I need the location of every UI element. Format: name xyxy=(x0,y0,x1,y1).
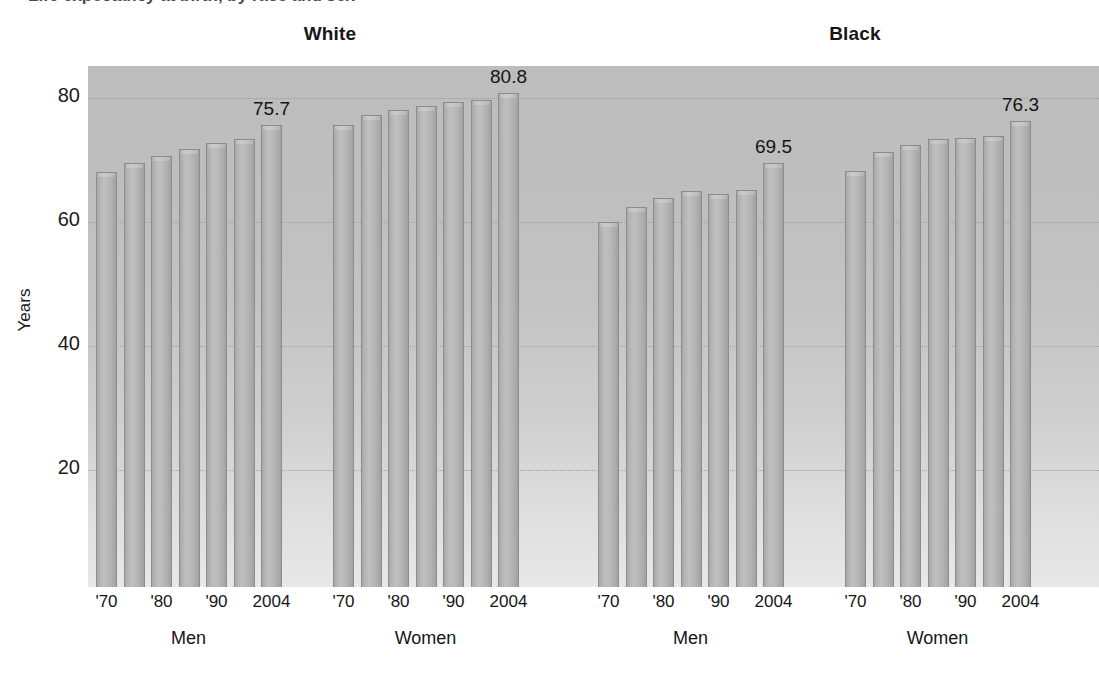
bar-value-label: 75.7 xyxy=(232,98,312,120)
bar xyxy=(708,194,729,587)
group-label-women-3: Women xyxy=(858,628,1018,649)
bar xyxy=(206,143,227,587)
bar xyxy=(124,163,145,587)
plot-area xyxy=(88,66,1099,587)
section-title-white: White xyxy=(255,23,405,45)
x-tick-label: 2004 xyxy=(989,592,1053,612)
bar xyxy=(681,191,702,587)
bar xyxy=(598,222,619,587)
bar xyxy=(443,102,464,587)
bar xyxy=(626,207,647,587)
bar xyxy=(179,149,200,587)
bar xyxy=(983,136,1004,587)
bar xyxy=(928,139,949,587)
bar xyxy=(234,139,255,587)
bar xyxy=(151,156,172,587)
bar-value-label: 69.5 xyxy=(734,136,814,158)
bar xyxy=(96,172,117,587)
group-label-women-1: Women xyxy=(346,628,506,649)
y-tick-label-60: 60 xyxy=(36,208,80,231)
bar xyxy=(873,152,894,587)
bar-value-label: 80.8 xyxy=(469,66,549,88)
cropped-source-title: Life expectancy at birth, by race and se… xyxy=(0,0,1099,8)
bar xyxy=(498,93,519,587)
bar xyxy=(388,110,409,587)
section-title-black: Black xyxy=(780,23,930,45)
bar xyxy=(653,198,674,587)
bar xyxy=(1010,121,1031,587)
x-tick-label: 2004 xyxy=(742,592,806,612)
bar xyxy=(471,100,492,587)
bar xyxy=(900,145,921,588)
bar xyxy=(416,106,437,587)
bar xyxy=(361,115,382,587)
chart-figure: Life expectancy at birth, by race and se… xyxy=(0,0,1099,677)
y-tick-label-20: 20 xyxy=(36,456,80,479)
y-tick-label-40: 40 xyxy=(36,332,80,355)
y-tick-label-80: 80 xyxy=(36,84,80,107)
x-tick-label: 2004 xyxy=(240,592,304,612)
bar xyxy=(763,163,784,587)
bar xyxy=(955,138,976,587)
bar xyxy=(333,125,354,587)
bar xyxy=(845,171,866,587)
bar xyxy=(261,125,282,587)
bar xyxy=(736,190,757,587)
x-tick-label: 2004 xyxy=(477,592,541,612)
bar-value-label: 76.3 xyxy=(981,94,1061,116)
group-label-men-2: Men xyxy=(611,628,771,649)
y-axis-tick-labels: 80604020 xyxy=(20,0,80,677)
group-label-men-0: Men xyxy=(109,628,269,649)
